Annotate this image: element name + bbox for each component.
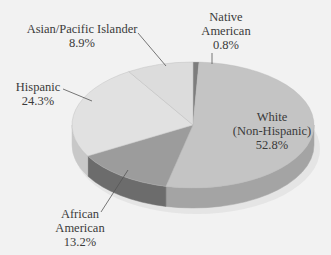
label-value: 8.9% [22, 36, 142, 50]
pie-chart: Native American 0.8% Asian/Pacific Islan… [0, 0, 331, 255]
label-value: 24.3% [8, 94, 68, 108]
label-african-american: African American 13.2% [50, 207, 110, 249]
label-text: Native [196, 10, 256, 24]
label-text: American [50, 221, 110, 235]
leader-line-asian [138, 33, 166, 66]
label-text: American [196, 24, 256, 38]
label-native-american: Native American 0.8% [196, 10, 256, 52]
label-value: 0.8% [196, 38, 256, 52]
label-asian-pacific-islander: Asian/Pacific Islander 8.9% [22, 22, 142, 50]
label-value: 52.8% [222, 138, 322, 152]
label-text: African [50, 207, 110, 221]
label-text: White [222, 110, 322, 124]
label-text: Asian/Pacific Islander [22, 22, 142, 36]
label-text: (Non-Hispanic) [222, 124, 322, 138]
label-white-non-hispanic: White (Non-Hispanic) 52.8% [222, 110, 322, 152]
label-value: 13.2% [50, 235, 110, 249]
label-hispanic: Hispanic 24.3% [8, 80, 68, 108]
label-text: Hispanic [8, 80, 68, 94]
